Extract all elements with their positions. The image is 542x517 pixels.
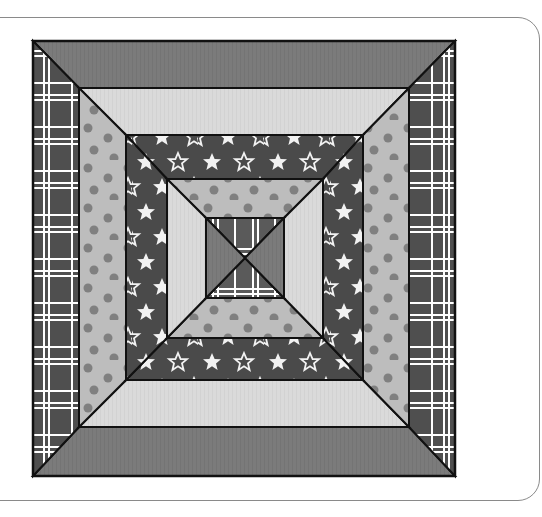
ring2-right-band [363,88,409,427]
quilt-block [0,0,542,517]
ring2-bottom-band [79,380,409,427]
outer-right-band [409,41,455,476]
outer-bottom-band [33,427,455,476]
outer-top-band [33,41,455,88]
ring3-left-band [126,135,167,380]
ring2-left-band [79,88,126,427]
outer-left-band [33,41,79,476]
ring3-right-band [323,135,363,380]
ring2-top-band [79,88,409,135]
